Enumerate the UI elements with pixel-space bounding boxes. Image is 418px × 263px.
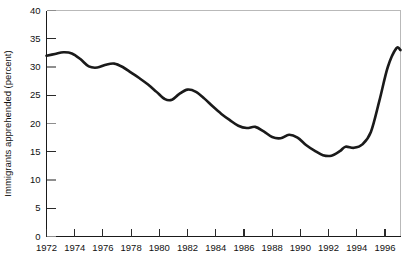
x-tick-label-1974: 1974 [64,242,85,253]
x-tick-label-1992: 1992 [318,242,339,253]
plot-frame [47,11,401,237]
y-tick-label-35: 35 [30,33,41,44]
x-tick-label-1994: 1994 [346,242,367,253]
x-tick-label-1978: 1978 [121,242,142,253]
x-tick-label-1976: 1976 [92,242,113,253]
data-series-line [47,47,401,156]
y-tick-label-10: 10 [30,174,41,185]
y-axis-title: Immigrants apprehended (percent) [2,50,13,196]
x-tick-label-1980: 1980 [149,242,170,253]
x-tick-label-1986: 1986 [233,242,254,253]
y-tick-label-20: 20 [30,118,41,129]
y-tick-label-0: 0 [35,231,40,242]
x-tick-label-1996: 1996 [374,242,395,253]
chart-figure: 0510152025303540 19721974197619781980198… [0,0,418,263]
line-chart: 0510152025303540 19721974197619781980198… [0,0,418,263]
y-axis-tick-labels: 0510152025303540 [30,5,41,242]
x-tick-label-1984: 1984 [205,242,226,253]
y-tick-label-40: 40 [30,5,41,16]
x-tick-label-1990: 1990 [290,242,311,253]
x-tick-label-1972: 1972 [36,242,57,253]
y-tick-label-15: 15 [30,146,41,157]
y-tick-label-5: 5 [35,202,40,213]
y-tick-label-30: 30 [30,61,41,72]
axis-lines [47,11,401,237]
x-axis-tick-labels: 1972197419761978198019821984198619881990… [36,242,396,253]
x-axis-ticks [47,229,385,237]
y-axis-ticks [47,11,56,237]
plot-frame-border [47,11,401,237]
x-tick-label-1988: 1988 [262,242,283,253]
y-tick-label-25: 25 [30,89,41,100]
x-tick-label-1982: 1982 [177,242,198,253]
